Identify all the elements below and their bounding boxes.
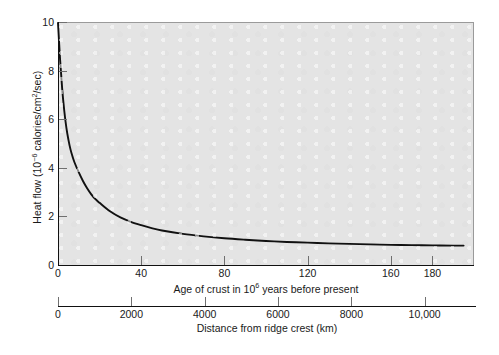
age-axis-tick (141, 256, 142, 265)
distance-axis-tick (351, 297, 352, 306)
heat-flow-figure: 0246810 Heat flow (10−6 calories/cm2/sec… (0, 0, 499, 355)
distance-axis-tick (425, 297, 426, 306)
heat-flow-curve-path (58, 23, 464, 246)
distance-axis-tick-label: 10,000 (395, 308, 455, 320)
y-axis-title-lead: Heat flow (10 (31, 162, 43, 224)
age-axis-title-tail: years before present (259, 283, 358, 295)
distance-axis-line (58, 306, 476, 307)
y-axis-tick (59, 119, 67, 120)
y-axis-tick (59, 22, 67, 23)
age-axis-tick-label: 0 (38, 267, 78, 279)
y-axis-tick (59, 71, 67, 72)
y-axis-tick-label: 10 (34, 17, 54, 27)
y-axis-title-tail: /sec) (31, 71, 43, 94)
distance-axis-tick-label: 2000 (101, 308, 161, 320)
distance-axis-tick (205, 297, 206, 306)
y-axis-title-mid: calories/cm (31, 98, 43, 154)
y-axis-tick (59, 216, 67, 217)
heat-flow-curve (58, 23, 474, 266)
distance-axis-tick-label: 4000 (175, 308, 235, 320)
age-axis-tick-label: 120 (288, 267, 328, 279)
age-axis-title: Age of crust in 106 years before present (58, 280, 474, 295)
y-axis-line (58, 22, 59, 266)
y-axis-tick (59, 168, 67, 169)
distance-axis-tick-label: 6000 (248, 308, 308, 320)
y-axis-title: Heat flow (10−6 calories/cm2/sec) (29, 32, 44, 262)
age-axis-tick (308, 256, 309, 265)
age-axis-tick-label: 180 (412, 267, 452, 279)
distance-axis-title: Distance from ridge crest (km) (58, 322, 476, 334)
age-axis-tick (391, 256, 392, 265)
distance-axis-tick-label: 8000 (321, 308, 381, 320)
age-axis-tick-label: 80 (204, 267, 244, 279)
age-axis-tick (432, 256, 433, 265)
age-axis-line (58, 265, 474, 266)
distance-axis-tick (278, 297, 279, 306)
plot-area (58, 22, 474, 265)
y-axis-title-exponent: −6 (30, 154, 39, 162)
distance-axis-tick (131, 297, 132, 306)
age-axis-tick-label: 40 (121, 267, 161, 279)
age-axis-tick-label: 160 (371, 267, 411, 279)
y-axis-title-exponent-2: 2 (30, 94, 39, 98)
age-axis-tick (224, 256, 225, 265)
age-axis-title-lead: Age of crust in 10 (174, 283, 256, 295)
distance-axis-tick-label: 0 (28, 308, 88, 320)
distance-axis-tick (58, 297, 59, 306)
